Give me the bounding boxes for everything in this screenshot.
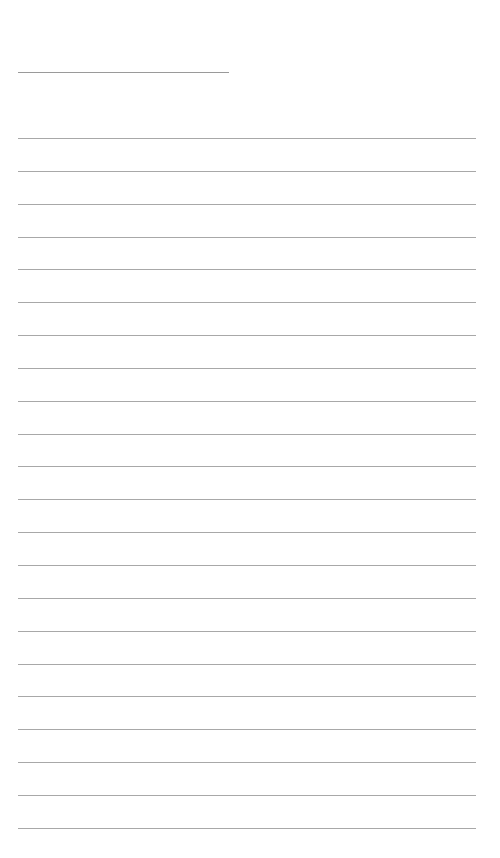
ruled-line	[18, 401, 476, 402]
ruled-line	[18, 302, 476, 303]
ruled-line	[18, 237, 476, 238]
ruled-line	[18, 171, 476, 172]
ruled-line	[18, 762, 476, 763]
ruled-line	[18, 368, 476, 369]
ruled-line	[18, 269, 476, 270]
ruled-line	[18, 795, 476, 796]
title-underline	[18, 72, 229, 73]
ruled-line	[18, 466, 476, 467]
ruled-lines	[18, 138, 476, 858]
ruled-line	[18, 565, 476, 566]
ruled-line	[18, 828, 476, 829]
ruled-line	[18, 204, 476, 205]
ruled-line	[18, 631, 476, 632]
ruled-line	[18, 729, 476, 730]
ruled-line	[18, 138, 476, 139]
ruled-line	[18, 335, 476, 336]
ruled-line	[18, 598, 476, 599]
ruled-line	[18, 664, 476, 665]
ruled-line	[18, 499, 476, 500]
ruled-line	[18, 532, 476, 533]
ruled-line	[18, 696, 476, 697]
ruled-line	[18, 434, 476, 435]
